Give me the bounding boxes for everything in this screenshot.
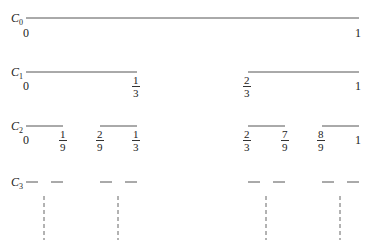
level-label-c0: C0	[11, 12, 23, 29]
c2-label-eight-ninths: 89	[317, 129, 325, 152]
c1-label-two-thirds: 23	[243, 75, 251, 98]
cantor-diagram	[0, 0, 369, 246]
c1-label-one-third: 13	[132, 75, 140, 98]
c2-label-two-ninths: 29	[96, 129, 104, 152]
c1-label-zero: 0	[23, 80, 29, 92]
c2-label-seven-ninths: 79	[281, 129, 289, 152]
c2-label-zero: 0	[23, 134, 29, 146]
c2-label-two-thirds: 23	[243, 129, 251, 152]
c0-label-zero: 0	[23, 27, 29, 39]
c1-label-one: 1	[355, 80, 361, 92]
c2-label-one-ninth: 19	[59, 129, 67, 152]
level-label-c2: C2	[11, 120, 23, 137]
c2-label-one: 1	[355, 134, 361, 146]
c0-label-one: 1	[355, 27, 361, 39]
c2-label-one-third: 13	[132, 129, 140, 152]
level-label-c1: C1	[11, 66, 23, 83]
level-label-c3: C3	[11, 176, 23, 193]
